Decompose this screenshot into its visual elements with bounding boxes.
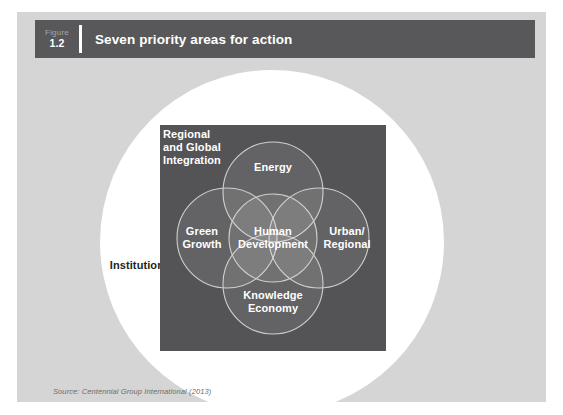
figure-title: Seven priority areas for action (82, 20, 292, 58)
figure-source-note: Source: Centennial Group International (… (53, 387, 211, 396)
diagram-label-urban-regional: Urban/ Regional (310, 225, 384, 251)
figure-panel: Figure 1.2 Seven priority areas for acti… (17, 12, 546, 402)
diagram-label-energy: Energy (221, 161, 325, 174)
venn-diagram-square: Regional and Global Integration Energy G… (160, 125, 386, 351)
diagram-label-knowledge-economy: Knowledge Economy (221, 289, 325, 315)
figure-header-bar: Figure 1.2 Seven priority areas for acti… (35, 20, 535, 58)
diagram-stage: Institutions Regional and Global Integra… (17, 58, 546, 402)
figure-number-label: 1.2 (49, 38, 64, 50)
figure-number-block: Figure 1.2 (35, 20, 79, 58)
